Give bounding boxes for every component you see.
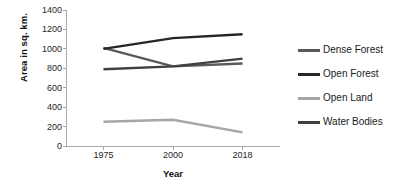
legend-label: Dense Forest (323, 45, 383, 55)
y-axis-tick-1400: 1400 (28, 5, 62, 15)
y-axis-tick-0: 0 (28, 141, 62, 151)
legend-label: Open Forest (323, 69, 379, 79)
legend-swatch-icon (298, 49, 320, 52)
x-axis-title: Year (66, 168, 280, 179)
y-axis-tick-800: 800 (28, 63, 62, 73)
legend-item-open-forest[interactable]: Open Forest (298, 62, 413, 86)
y-axis-tick-1000: 1000 (28, 44, 62, 54)
y-axis-tick-200: 200 (28, 122, 62, 132)
legend-swatch-icon (298, 121, 320, 124)
legend-swatch-icon (298, 97, 320, 100)
series-line-open-forest (103, 34, 242, 49)
chart-legend: Dense ForestOpen ForestOpen LandWater Bo… (298, 38, 413, 134)
plot-area (66, 10, 280, 146)
legend-item-dense-forest[interactable]: Dense Forest (298, 38, 413, 62)
y-axis-tick-400: 400 (28, 102, 62, 112)
y-axis-tick-1200: 1200 (28, 24, 62, 34)
legend-label: Open Land (323, 93, 373, 103)
legend-label: Water Bodies (323, 117, 383, 127)
x-axis-tick-2018: 2018 (213, 150, 273, 160)
line-chart: Area in sq. km. 140012001000800600400200… (0, 0, 413, 192)
legend-item-open-land[interactable]: Open Land (298, 86, 413, 110)
series-line-dense-forest (103, 48, 242, 66)
legend-swatch-icon (298, 73, 320, 76)
y-axis-title: Area in sq. km. (18, 0, 29, 103)
y-axis-tick-labels: 1400120010008006004002000 (28, 10, 62, 146)
x-axis-tick-2000: 2000 (143, 150, 203, 160)
series-line-open-land (103, 120, 242, 133)
plot-svg (66, 10, 280, 146)
legend-item-water-bodies[interactable]: Water Bodies (298, 110, 413, 134)
x-axis-tick-labels: 197520002018 (66, 150, 280, 164)
y-axis-tick-600: 600 (28, 83, 62, 93)
x-axis-tick-1975: 1975 (73, 150, 133, 160)
